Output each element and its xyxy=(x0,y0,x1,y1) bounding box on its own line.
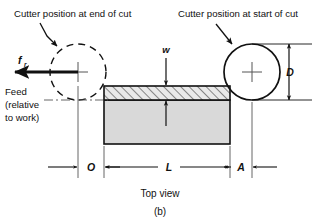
workpiece-cut-layer-hatched xyxy=(104,86,230,100)
callout-label-left: Cutter position at end of cut xyxy=(14,8,132,19)
callout-label-right: Cutter position at start of cut xyxy=(178,8,298,19)
approach-label: A xyxy=(236,161,245,173)
figure-caption: Top view xyxy=(141,188,181,199)
feed-rate-symbol: f xyxy=(18,54,23,66)
feed-label-line-1: Feed xyxy=(5,86,27,97)
callout-leader-right xyxy=(216,24,232,44)
callout-leader-left xyxy=(40,23,57,46)
width-of-cut-label: w xyxy=(162,44,170,55)
overtravel-label: O xyxy=(87,161,95,173)
length-of-cut-label: L xyxy=(166,161,172,173)
diagram-canvas: Cutter position at end of cut Cutter pos… xyxy=(0,0,320,221)
figure-panel-label: (b) xyxy=(154,206,166,217)
workpiece-body xyxy=(104,100,230,144)
figure-top-view-slab-milling: Cutter position at end of cut Cutter pos… xyxy=(0,0,320,221)
feed-label-line-2: (relative xyxy=(5,99,39,110)
feed-rate-subscript: r xyxy=(24,61,27,68)
cutter-diameter-label: D xyxy=(286,66,294,78)
feed-label-line-3: to work) xyxy=(5,112,39,123)
